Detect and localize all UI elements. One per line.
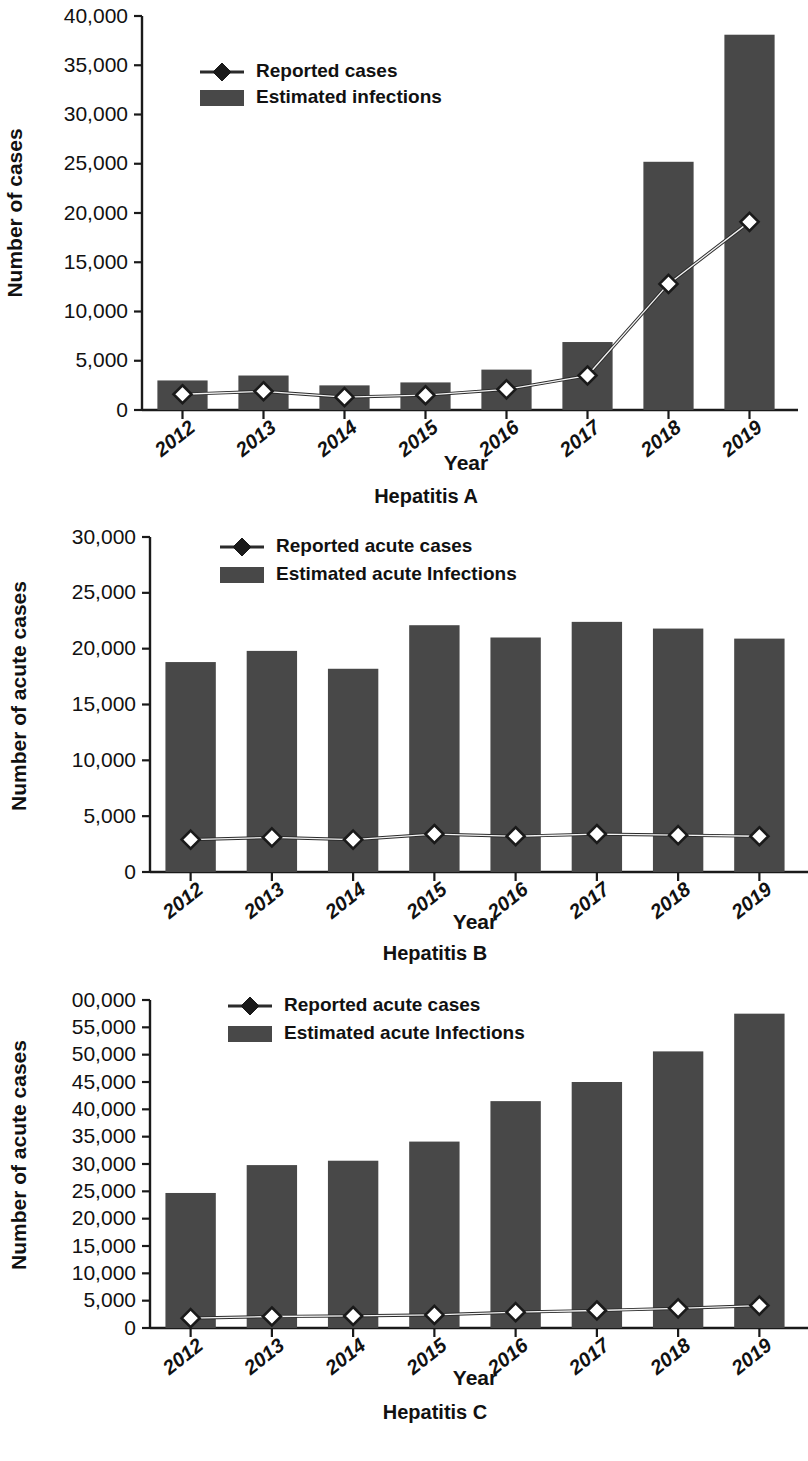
x-tick-label: 2017	[564, 1333, 614, 1379]
x-tick-label: 2018	[645, 1333, 695, 1379]
y-tick-label: 10,000	[72, 1261, 136, 1284]
legend-bar-swatch	[228, 1026, 272, 1042]
x-tick-label: 2019	[726, 877, 776, 923]
y-tick-label: 0	[116, 398, 128, 421]
y-tick-label: 20,000	[72, 636, 136, 659]
x-tick-label: 2018	[645, 877, 695, 923]
legend-label-estimated: Estimated infections	[256, 86, 442, 107]
y-tick-label: 5,000	[75, 348, 128, 371]
y-tick-label: 5,000	[83, 804, 136, 827]
y-tick-label: 15,000	[72, 1234, 136, 1257]
x-axis-title: Year	[453, 1366, 497, 1389]
y-tick-label: 0	[124, 860, 136, 883]
chart-panel-hepatitis-b: 05,00010,00015,00020,00025,00030,0002012…	[0, 496, 808, 966]
y-tick-label: 25,000	[64, 151, 128, 174]
chart-svg-b: 05,00010,00015,00020,00025,00030,0002012…	[0, 496, 808, 966]
chart-svg-c: 05,00010,00015,00020,00025,00030,00035,0…	[0, 960, 808, 1461]
x-axis-title: Year	[444, 451, 488, 474]
bar	[653, 1051, 703, 1328]
x-tick-label: 2014	[320, 1334, 369, 1379]
x-tick-label: 2018	[636, 415, 686, 461]
x-tick-label: 2013	[239, 878, 288, 923]
y-tick-label: 20,000	[64, 201, 128, 224]
y-axis-title: Number of acute cases	[7, 1040, 30, 1270]
legend-diamond-icon	[213, 63, 231, 81]
chart-panel-hepatitis-a: 05,00010,00015,00020,00025,00030,00035,0…	[0, 0, 808, 520]
y-tick-label: 40,000	[72, 1097, 136, 1120]
bar	[734, 1014, 784, 1328]
bar	[572, 1082, 622, 1328]
y-tick-label: 15,000	[72, 692, 136, 715]
y-tick-label: 30,000	[64, 102, 128, 125]
x-tick-label: 2012	[150, 416, 199, 461]
y-tick-label: 20,000	[72, 1206, 136, 1229]
x-tick-label: 2013	[239, 1334, 288, 1379]
x-axis-title: Year	[453, 910, 497, 933]
legend-bar-swatch	[200, 90, 244, 106]
bar	[409, 1142, 459, 1328]
y-tick-label: 10,000	[72, 748, 136, 771]
y-axis-title: Number of acute cases	[7, 581, 30, 811]
chart-svg-a: 05,00010,00015,00020,00025,00030,00035,0…	[0, 0, 808, 520]
y-tick-label: 5,000	[83, 1288, 136, 1311]
y-tick-label: 00,000	[72, 988, 136, 1011]
chart-panel-hepatitis-c: 05,00010,00015,00020,00025,00030,00035,0…	[0, 960, 808, 1461]
legend-label-reported: Reported cases	[256, 60, 398, 81]
x-tick-label: 2017	[555, 415, 605, 461]
y-tick-label: 30,000	[72, 525, 136, 548]
x-tick-label: 2012	[158, 878, 207, 923]
y-tick-label: 10,000	[64, 299, 128, 322]
legend-label-reported: Reported acute cases	[284, 994, 480, 1015]
legend-diamond-icon	[233, 538, 251, 556]
bar	[247, 1165, 297, 1328]
x-tick-label: 2015	[401, 1333, 451, 1379]
y-tick-label: 50,000	[72, 1042, 136, 1065]
legend-diamond-icon	[241, 997, 259, 1015]
bar	[490, 1101, 540, 1328]
y-tick-label: 55,000	[72, 1015, 136, 1038]
legend-label-reported: Reported acute cases	[276, 535, 472, 556]
panel-title: Hepatitis C	[383, 1401, 487, 1423]
y-tick-label: 0	[124, 1316, 136, 1339]
x-tick-label: 2019	[717, 415, 767, 461]
legend-label-estimated: Estimated acute Infections	[276, 563, 517, 584]
legend-bar-swatch	[220, 567, 264, 583]
x-tick-label: 2012	[158, 1334, 207, 1379]
x-tick-label: 2019	[726, 1333, 776, 1379]
y-tick-label: 25,000	[72, 580, 136, 603]
y-tick-label: 25,000	[72, 1179, 136, 1202]
bar	[328, 1161, 378, 1328]
y-tick-label: 45,000	[72, 1070, 136, 1093]
x-tick-label: 2015	[401, 877, 451, 923]
y-tick-label: 35,000	[72, 1124, 136, 1147]
y-tick-label: 35,000	[64, 53, 128, 76]
x-tick-label: 2017	[564, 877, 614, 923]
x-tick-label: 2014	[320, 878, 369, 923]
y-tick-label: 15,000	[64, 250, 128, 273]
legend-label-estimated: Estimated acute Infections	[284, 1022, 525, 1043]
y-tick-label: 40,000	[64, 4, 128, 27]
y-tick-label: 30,000	[72, 1152, 136, 1175]
x-tick-label: 2015	[393, 415, 443, 461]
x-tick-label: 2013	[231, 416, 280, 461]
y-axis-title: Number of cases	[3, 128, 26, 297]
x-tick-label: 2014	[312, 416, 361, 461]
